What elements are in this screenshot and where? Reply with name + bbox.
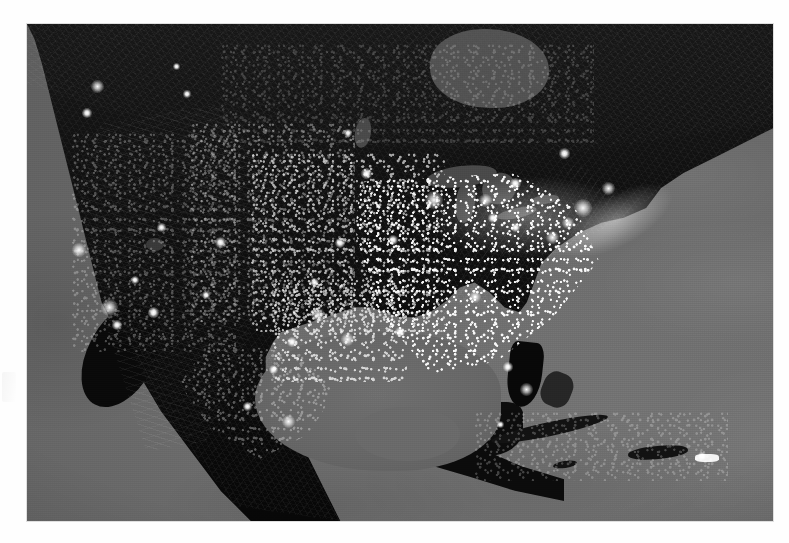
city-light-monterrey [269,365,278,374]
city-light-new-york [574,199,592,217]
city-light-st-louis [388,235,398,245]
city-light-albuquerque [202,291,210,299]
city-light-guadalajara [243,402,252,411]
city-light-houston [341,333,354,346]
city-lights-layer [27,24,773,521]
city-light-montreal [559,148,570,159]
city-light-las-vegas [131,276,139,284]
city-light-kansas-city [335,238,345,248]
city-light-seattle [91,80,104,93]
city-light-tampa [503,362,513,372]
city-light-atlanta [469,291,481,303]
city-light-pittsburgh [511,223,520,232]
city-light-new-orleans [395,327,405,337]
city-light-salt-lake-city [157,223,166,232]
city-light-minneapolis [361,168,372,179]
satellite-photo [27,24,773,521]
city-light-los-angeles [101,299,118,316]
city-light-phoenix [148,307,159,318]
city-light-havana [497,421,504,428]
city-light-miami [520,383,533,396]
city-light-philadelphia [562,217,574,229]
city-light-winnipeg [344,129,352,137]
city-light-washington-dc [546,231,559,244]
city-light-toronto [510,178,521,189]
city-light-calgary [183,90,191,98]
city-light-san-francisco [72,243,86,257]
scan-artifact [2,372,16,402]
city-light-oklahoma-city [310,278,319,287]
city-light-san-diego [112,320,122,330]
page-canvas [0,0,789,543]
city-light-chicago [425,191,443,209]
city-light-detroit [479,194,492,207]
city-light-mexico-city [282,415,295,428]
city-light-portland [82,108,92,118]
city-light-san-antonio [287,337,297,347]
city-light-edmonton [173,63,180,70]
city-light-cleveland [488,213,498,223]
city-light-denver [215,237,226,248]
city-light-dallas [311,308,325,322]
city-light-boston [602,182,615,195]
city-light-san-juan [698,452,706,460]
